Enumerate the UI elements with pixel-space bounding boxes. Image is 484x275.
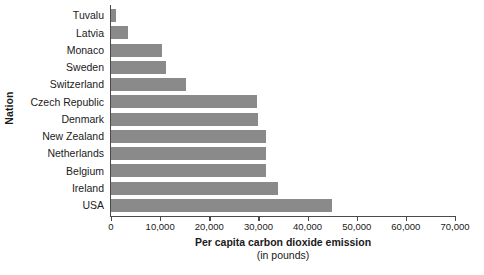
bar: [111, 113, 258, 126]
bar-row: [111, 145, 455, 162]
x-axis-tick-label: 20,000: [195, 221, 224, 232]
y-axis-tick-label: Ireland: [14, 180, 108, 197]
bar: [111, 199, 332, 212]
y-axis-tick-label: Netherlands: [14, 145, 108, 162]
bar: [111, 147, 266, 160]
bar-row: [111, 7, 455, 24]
x-axis-tick-label: 0: [108, 221, 113, 232]
bar-row: [111, 24, 455, 41]
bar-row: [111, 128, 455, 145]
bar-row: [111, 76, 455, 93]
x-axis-tick-label: 60,000: [391, 221, 420, 232]
bar: [111, 78, 186, 91]
bar: [111, 164, 266, 177]
plot-area: [111, 7, 455, 214]
y-axis-line: [110, 5, 111, 217]
y-axis-tick-label: Switzerland: [14, 76, 108, 93]
bar-series: [111, 7, 455, 214]
bar-row: [111, 162, 455, 179]
bar-row: [111, 180, 455, 197]
x-axis-tick-labels: 010,00020,00030,00040,00050,00060,00070,…: [111, 221, 455, 235]
y-axis-tick-label: Sweden: [14, 59, 108, 76]
y-axis-tick-label: New Zealand: [14, 128, 108, 145]
y-axis-tick-label: Denmark: [14, 111, 108, 128]
y-axis-tick-label: Latvia: [14, 24, 108, 41]
bar-row: [111, 42, 455, 59]
bar: [111, 95, 257, 108]
bar-row: [111, 93, 455, 110]
x-axis-tick-label: 40,000: [293, 221, 322, 232]
bar-row: [111, 111, 455, 128]
y-axis-tick-labels: TuvaluLatviaMonacoSwedenSwitzerlandCzech…: [14, 7, 108, 214]
bar-row: [111, 197, 455, 214]
x-axis-tick-label: 30,000: [244, 221, 273, 232]
y-axis-tick-label: Belgium: [14, 162, 108, 179]
bar-chart: Nation TuvaluLatviaMonacoSwedenSwitzerla…: [0, 0, 484, 275]
x-axis-title-units: (in pounds): [111, 249, 455, 262]
bar: [111, 26, 128, 39]
x-axis-tick-label: 50,000: [342, 221, 371, 232]
x-axis-tick-label: 10,000: [146, 221, 175, 232]
y-axis-tick-label: Tuvalu: [14, 7, 108, 24]
bar: [111, 130, 266, 143]
bar: [111, 44, 162, 57]
x-axis-title: Per capita carbon dioxide emission (in p…: [111, 236, 455, 262]
bar: [111, 9, 116, 22]
bar: [111, 182, 278, 195]
y-axis-tick-label: Czech Republic: [14, 93, 108, 110]
x-axis-title-text: Per capita carbon dioxide emission: [111, 236, 455, 249]
y-axis-tick-label: USA: [14, 197, 108, 214]
y-axis-tick-label: Monaco: [14, 42, 108, 59]
bar: [111, 61, 166, 74]
bar-row: [111, 59, 455, 76]
x-axis-tick-label: 70,000: [440, 221, 469, 232]
